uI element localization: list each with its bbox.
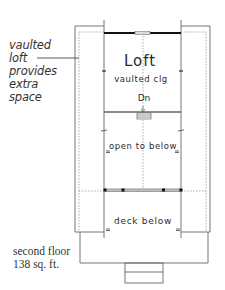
room-label-loft: Loft [124,52,156,70]
entry-step [125,263,163,283]
outer-right-boundary [181,26,210,232]
floor-name: second floor [13,245,70,258]
wall-mark-right-2 [178,130,184,131]
room-label-deck: deck below [114,216,172,226]
room-note-vaulted: vaulted clg [114,74,168,84]
deck-beam [104,189,183,192]
wall-mark-right-4 [176,229,180,231]
annotation-line: space [9,91,57,104]
dotted-right-eave [181,32,206,232]
outer-left-boundary [75,26,104,232]
wall-mark-right-3 [175,151,179,153]
annotation-note: vaulted loft provides extra space [9,39,57,104]
floor-caption: second floor 138 sq. ft. [13,245,70,271]
wall-mark-left-4 [106,229,110,231]
floor-area: 138 sq. ft. [13,258,70,271]
deck-outline [80,232,208,263]
wall-mark-left-2 [101,130,107,131]
stair-label: Dn [138,93,151,103]
dotted-left-eave [79,32,104,232]
room-label-open: open to below [109,141,177,151]
wall-mark-left-3 [106,151,110,153]
top-window [135,32,150,35]
